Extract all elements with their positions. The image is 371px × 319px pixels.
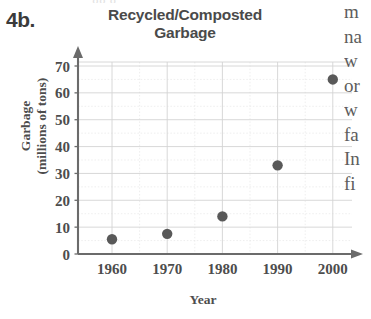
y-tick-label: 50 [55,112,70,128]
x-tick-label: 1980 [207,261,237,277]
data-point [162,229,172,239]
y-tick-label: 20 [55,193,70,209]
axis-lines [73,46,363,259]
y-axis-tick-labels: 010203040506070 [55,59,70,263]
data-point [107,234,117,244]
y-tick-label: 60 [55,85,70,101]
cropped-text-line: na [344,25,371,50]
cropped-text-line: or [344,74,371,99]
cropped-text-line: fi [344,172,371,197]
x-axis-title: Year [78,292,328,308]
cropped-text-line: In [344,147,371,172]
x-tick-label: 1990 [263,261,293,277]
y-tick-label: 70 [55,59,70,75]
y-tick-label: 10 [55,220,70,236]
y-tick-label: 30 [55,166,70,182]
y-tick-label: 0 [63,247,71,263]
major-gridlines [78,62,352,254]
cropped-text-line: fa [344,123,371,148]
x-tick-label: 1960 [97,261,127,277]
x-tick-label: 1970 [152,261,182,277]
cropped-body-text-column: mnaworwfaInfi [344,0,371,200]
cropped-text-line: w [344,98,371,123]
minor-gridlines [78,62,352,254]
x-tick-label: 2000 [318,261,348,277]
y-tick-label: 40 [55,139,70,155]
cropped-text-line: m [344,0,371,25]
data-point [272,160,282,170]
scatter-plot: 010203040506070 19601970198019902000 [0,0,371,319]
data-point [328,74,338,84]
x-axis-tick-labels: 19601970198019902000 [97,261,348,277]
cropped-text-line: w [344,49,371,74]
data-point [217,211,227,221]
